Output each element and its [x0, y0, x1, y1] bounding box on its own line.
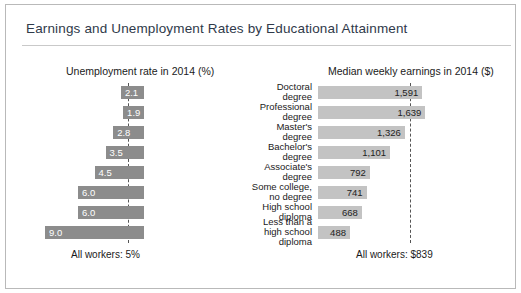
earnings-bar-cell: 488 [318, 223, 511, 243]
chart-row: 2.1Doctoraldegree1,591 [22, 83, 511, 103]
unemployment-value: 6.0 [82, 206, 95, 219]
left-axis-header: Unemployment rate in 2014 (%) [66, 65, 214, 77]
unemployment-value: 2.1 [125, 86, 138, 99]
unemployment-bar-cell: 9.0 [22, 223, 244, 243]
earnings-bar-cell: 1,326 [318, 123, 511, 143]
earnings-value: 668 [332, 206, 358, 219]
bar-chart: 2.1Doctoraldegree1,5911.9Professionaldeg… [22, 83, 511, 243]
category-label: Some college,no degree [252, 182, 312, 202]
category-label: Professionaldegree [260, 102, 312, 122]
earnings-bar-cell: 1,639 [318, 103, 511, 123]
title-divider [22, 45, 511, 46]
earnings-bar-cell: 1,101 [318, 143, 511, 163]
category-label-cell: Doctoraldegree [244, 83, 316, 103]
unemployment-value: 1.9 [127, 106, 140, 119]
page-title: Earnings and Unemployment Rates by Educa… [26, 21, 408, 36]
earnings-value: 792 [340, 166, 366, 179]
earnings-value: 1,101 [360, 146, 386, 159]
unemployment-bar-cell: 6.0 [22, 183, 244, 203]
unemployment-bar-cell: 2.8 [22, 123, 244, 143]
chart-row: 9.0Less than ahigh schooldiploma488 [22, 223, 511, 243]
category-label: Associate'sdegree [264, 162, 312, 182]
left-reference-note: All workers: 5% [71, 249, 140, 260]
category-label-cell: Master'sdegree [244, 123, 316, 143]
unemployment-bar-cell: 6.0 [22, 203, 244, 223]
category-label: Less than ahigh schooldiploma [263, 217, 312, 247]
category-label-cell: Some college,no degree [244, 183, 316, 203]
chart-frame: Earnings and Unemployment Rates by Educa… [5, 4, 516, 289]
chart-row: 4.5Associate'sdegree792 [22, 163, 511, 183]
earnings-bar-cell: 1,591 [318, 83, 511, 103]
chart-row: 2.8Master'sdegree1,326 [22, 123, 511, 143]
unemployment-bar-cell: 3.5 [22, 143, 244, 163]
unemployment-bar-cell: 1.9 [22, 103, 244, 123]
category-label-cell: Bachelor'sdegree [244, 143, 316, 163]
category-label-cell: Associate'sdegree [244, 163, 316, 183]
chart-row: 1.9Professionaldegree1,639 [22, 103, 511, 123]
category-label-cell: Professionaldegree [244, 103, 316, 123]
unemployment-value: 3.5 [110, 146, 123, 159]
unemployment-value: 9.0 [49, 226, 62, 239]
chart-row: 6.0Some college,no degree741 [22, 183, 511, 203]
earnings-bar-cell: 668 [318, 203, 511, 223]
earnings-value: 1,591 [392, 86, 418, 99]
earnings-bar-cell: 741 [318, 183, 511, 203]
unemployment-bar-cell: 2.1 [22, 83, 244, 103]
earnings-value: 488 [320, 226, 346, 239]
unemployment-bar-cell: 4.5 [22, 163, 244, 183]
category-label-cell: Less than ahigh schooldiploma [244, 223, 316, 243]
right-axis-header: Median weekly earnings in 2014 ($) [328, 65, 494, 77]
unemployment-value: 4.5 [99, 166, 112, 179]
earnings-value: 741 [337, 186, 363, 199]
chart-row: 3.5Bachelor'sdegree1,101 [22, 143, 511, 163]
right-reference-note: All workers: $839 [356, 249, 433, 260]
earnings-value: 1,639 [395, 106, 421, 119]
earnings-value: 1,326 [375, 126, 401, 139]
unemployment-value: 2.8 [117, 126, 130, 139]
category-label: Doctoraldegree [277, 82, 312, 102]
earnings-bar-cell: 792 [318, 163, 511, 183]
unemployment-value: 6.0 [82, 186, 95, 199]
chart-page: Earnings and Unemployment Rates by Educa… [0, 0, 521, 293]
category-label: Master'sdegree [276, 122, 312, 142]
category-label: Bachelor'sdegree [268, 142, 312, 162]
